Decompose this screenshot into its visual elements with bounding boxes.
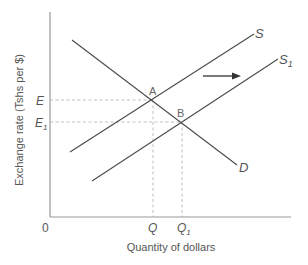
y-tick-E1: E1	[35, 116, 47, 132]
y-axis-title: Exchange rate (Tshs per $)	[13, 54, 25, 186]
x-tick-Q: Q	[148, 221, 157, 235]
x-tick-Q1: Q1	[177, 221, 191, 237]
x-axis-title: Quantity of dollars	[127, 241, 216, 253]
label-S: S	[255, 26, 264, 41]
point-B: B	[177, 107, 184, 119]
x-tick-Q1-sub: 1	[186, 228, 190, 237]
label-S1-sub: 1	[288, 59, 293, 69]
label-D: D	[239, 160, 248, 175]
exchange-rate-diagram: S S1 D A B E E1 0 Q Q1 Quantity of dolla…	[0, 0, 308, 265]
y-tick-E1-sub: 1	[43, 123, 47, 132]
x-tick-Q1-main: Q	[177, 221, 186, 235]
label-S1-main: S	[279, 52, 288, 67]
label-S1: S1	[279, 52, 293, 69]
y-tick-E: E	[36, 94, 45, 108]
origin-label: 0	[42, 221, 49, 235]
arrow-head-icon	[232, 73, 241, 80]
point-A: A	[149, 85, 157, 97]
